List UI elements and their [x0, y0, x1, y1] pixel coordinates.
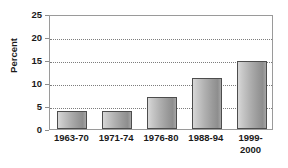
x-axis-tick-label-line: 2000 — [222, 144, 280, 156]
y-axis-tick-label: 20 — [20, 33, 42, 43]
bars-layer — [50, 16, 272, 129]
x-axis-tick-label-group: 1963-701971-741976-801988-941999-2000 — [49, 132, 273, 166]
x-axis-tick-label: 1999-2000 — [222, 132, 280, 155]
y-axis-tick-label: 25 — [20, 10, 42, 20]
y-axis-tick-mark — [45, 61, 49, 62]
bar — [102, 111, 132, 129]
y-axis-tick-mark — [45, 38, 49, 39]
bar — [57, 111, 87, 129]
y-axis-tick-mark — [45, 84, 49, 85]
bar — [147, 97, 177, 129]
plot-area — [49, 15, 273, 130]
y-axis-tick-label: 5 — [20, 102, 42, 112]
y-axis-tick-label: 0 — [20, 125, 42, 135]
bar — [192, 78, 222, 129]
y-axis-tick-label-group: 2520151050 — [20, 15, 42, 130]
y-axis-tick-label: 10 — [20, 79, 42, 89]
y-axis-tick-mark — [45, 130, 49, 131]
y-axis-tick-label: 15 — [20, 56, 42, 66]
bar — [237, 61, 267, 129]
y-axis-tick-mark — [45, 15, 49, 16]
bar-chart: Percent 2520151050 1963-701971-741976-80… — [0, 0, 288, 168]
y-axis-tick-mark — [45, 107, 49, 108]
y-axis-title: Percent — [8, 16, 19, 96]
x-axis-tick-label-line: 1999- — [222, 132, 280, 144]
